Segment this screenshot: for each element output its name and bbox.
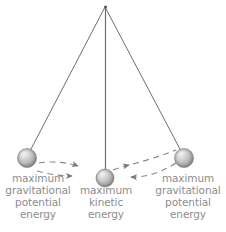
- arc-upper-left-segment: [39, 162, 78, 166]
- caption-mid-line-1: maximum: [72, 184, 140, 196]
- string-right: [105, 7, 181, 151]
- bob-right: [175, 149, 194, 168]
- arc-upper-right-tail: [133, 150, 176, 164]
- caption-right-line-1: maximum: [150, 172, 226, 184]
- pivot-point: [104, 5, 107, 8]
- caption-right-line-2: gravitational: [150, 184, 226, 196]
- bob-left: [18, 149, 37, 168]
- caption-mid-line-2: kinetic: [72, 196, 140, 208]
- string-left: [30, 7, 105, 151]
- caption-max-kinetic-energy: maximum kinetic energy: [72, 184, 140, 220]
- caption-left-line-4: energy: [0, 208, 76, 220]
- caption-left-line-2: gravitational: [0, 184, 76, 196]
- caption-right-line-3: potential: [150, 196, 226, 208]
- caption-left-line-1: maximum: [0, 172, 76, 184]
- pendulum-energy-diagram: maximum gravitational potential energy m…: [0, 0, 226, 232]
- caption-mid-line-3: energy: [72, 208, 140, 220]
- caption-left-line-3: potential: [0, 196, 76, 208]
- caption-max-gravitational-potential-energy-left: maximum gravitational potential energy: [0, 172, 76, 220]
- arc-upper-right-segment: [113, 165, 129, 170]
- caption-max-gravitational-potential-energy-right: maximum gravitational potential energy: [150, 172, 226, 220]
- caption-right-line-4: energy: [150, 208, 226, 220]
- pendulum-strings: [30, 7, 181, 173]
